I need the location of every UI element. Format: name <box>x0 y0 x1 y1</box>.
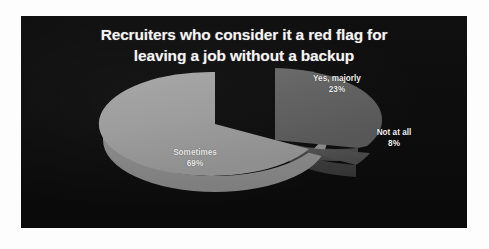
pie-label-sometimes: Sometimes 69% <box>149 148 241 169</box>
pie-label-sometimes-value: 69% <box>149 159 241 170</box>
pie-label-yes-majorly-value: 23% <box>289 85 385 96</box>
pie-label-yes-majorly-name: Yes, majorly <box>289 74 385 85</box>
pie-label-not-at-all: Not at all 8% <box>351 128 437 149</box>
chart-title: Recruiters who consider it a red flag fo… <box>21 24 467 66</box>
screenshot-root: Recruiters who consider it a red flag fo… <box>0 0 489 249</box>
pie-label-not-at-all-name: Not at all <box>351 128 437 139</box>
slide-panel: Recruiters who consider it a red flag fo… <box>21 16 467 228</box>
pie-label-not-at-all-value: 8% <box>351 139 437 150</box>
pie-label-sometimes-name: Sometimes <box>149 148 241 159</box>
pie-label-yes-majorly: Yes, majorly 23% <box>289 74 385 95</box>
chart-title-line-2: leaving a job without a backup <box>21 45 467 66</box>
chart-title-line-1: Recruiters who consider it a red flag fo… <box>21 24 467 45</box>
